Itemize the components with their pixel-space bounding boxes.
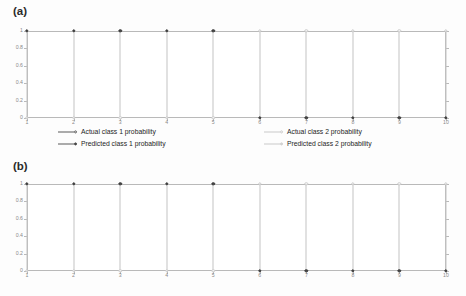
stem-line — [259, 31, 260, 118]
x-tick-label: 8 — [351, 273, 354, 278]
stem-line — [166, 184, 167, 271]
data-point-marker — [118, 29, 121, 32]
stem-line — [73, 184, 74, 271]
legend-column-left: Actual class 1 probability Predicted cla… — [58, 126, 166, 150]
data-point-marker — [398, 29, 401, 32]
data-point-marker — [72, 29, 75, 32]
legend-item-actual-class-1: Actual class 1 probability — [58, 126, 166, 138]
stem-line — [166, 31, 167, 118]
panel-a-label: (a) — [13, 5, 27, 17]
data-point-marker — [351, 29, 354, 32]
legend-column-right: Actual class 2 probability Predicted cla… — [264, 126, 372, 150]
x-tick-label: 7 — [305, 120, 308, 125]
data-point-marker — [212, 29, 215, 32]
panel-a: (a) 00.20.40.60.8112345678910 Actual cla… — [0, 0, 466, 155]
axis-bottom-a — [27, 117, 446, 118]
legend-label: Actual class 1 probability — [81, 129, 156, 136]
legend-item-predicted-class-2: Predicted class 2 probability — [264, 138, 372, 150]
legend-label: Actual class 2 probability — [287, 129, 362, 136]
x-tick-label: 6 — [258, 120, 261, 125]
y-tick-label: 0.6 — [16, 63, 23, 68]
legend-label: Predicted class 2 probability — [287, 141, 372, 148]
x-tick-label: 5 — [212, 120, 215, 125]
data-point-marker — [444, 182, 447, 185]
data-point-marker — [212, 182, 215, 185]
y-tick-label: 0.4 — [16, 81, 23, 86]
y-tick-label: 0.6 — [16, 216, 23, 221]
x-tick-label: 8 — [351, 120, 354, 125]
x-tick-label: 3 — [119, 273, 122, 278]
legend-item-predicted-class-1: Predicted class 1 probability — [58, 138, 166, 150]
x-tick-label: 9 — [398, 273, 401, 278]
stem-line — [73, 31, 74, 118]
y-tick-label: 0.8 — [16, 199, 23, 204]
x-tick-label: 2 — [72, 273, 75, 278]
y-tick-label: 0.4 — [16, 234, 23, 239]
plot-area-a: 00.20.40.60.8112345678910 — [27, 31, 446, 118]
stem-line — [27, 31, 28, 118]
legend-label: Predicted class 1 probability — [81, 141, 166, 148]
stem-line — [352, 31, 353, 118]
axis-bottom-b — [27, 270, 446, 271]
stem-line — [259, 184, 260, 271]
x-tick-label: 2 — [72, 120, 75, 125]
stem-line — [27, 184, 28, 271]
data-point-marker — [305, 29, 308, 32]
data-point-marker — [25, 29, 28, 32]
y-tick-label: 1 — [20, 28, 23, 33]
data-point-marker — [165, 182, 168, 185]
figure-canvas: (a) 00.20.40.60.8112345678910 Actual cla… — [0, 0, 466, 296]
panel-b-label: (b) — [13, 160, 28, 172]
stem-line — [399, 184, 400, 271]
axis-top-a — [27, 31, 446, 32]
legend-line-open-circle-light-icon — [264, 128, 284, 136]
stem-line — [399, 31, 400, 118]
stem-line — [352, 184, 353, 271]
x-tick-label: 4 — [165, 273, 168, 278]
x-tick-label: 4 — [165, 120, 168, 125]
data-point-marker — [165, 29, 168, 32]
data-point-marker — [444, 29, 447, 32]
stem-line — [120, 31, 121, 118]
legend-line-filled-circle-dark-icon — [58, 140, 78, 148]
x-tick-label: 7 — [305, 273, 308, 278]
x-tick-label: 10 — [443, 273, 449, 278]
x-tick-label: 9 — [398, 120, 401, 125]
legend-line-filled-square-light-icon — [264, 140, 284, 148]
legend-item-actual-class-2: Actual class 2 probability — [264, 126, 372, 138]
data-point-marker — [258, 182, 261, 185]
data-point-marker — [305, 182, 308, 185]
panel-b: (b) 00.20.40.60.8112345678910 — [0, 155, 466, 296]
axis-top-b — [27, 184, 446, 185]
data-point-marker — [25, 182, 28, 185]
data-point-marker — [118, 182, 121, 185]
x-tick-label: 3 — [119, 120, 122, 125]
stem-line — [213, 31, 214, 118]
data-point-marker — [258, 29, 261, 32]
data-point-marker — [351, 182, 354, 185]
y-tick-label: 0 — [20, 268, 23, 273]
stem-line — [446, 184, 447, 271]
data-point-marker — [72, 182, 75, 185]
y-tick-label: 0 — [20, 115, 23, 120]
stem-line — [306, 184, 307, 271]
stem-line — [446, 31, 447, 118]
y-tick-label: 0.2 — [16, 251, 23, 256]
x-tick-label: 5 — [212, 273, 215, 278]
stem-line — [306, 31, 307, 118]
y-tick-label: 1 — [20, 181, 23, 186]
y-tick-label: 0.2 — [16, 98, 23, 103]
plot-area-b: 00.20.40.60.8112345678910 — [27, 184, 446, 271]
x-tick-label: 6 — [258, 273, 261, 278]
x-tick-label: 1 — [26, 120, 29, 125]
legend: Actual class 1 probability Predicted cla… — [0, 126, 466, 154]
y-tick-label: 0.8 — [16, 46, 23, 51]
data-point-marker — [398, 182, 401, 185]
x-tick-label: 1 — [26, 273, 29, 278]
x-tick-label: 10 — [443, 120, 449, 125]
stem-line — [213, 184, 214, 271]
stem-line — [120, 184, 121, 271]
legend-line-open-circle-dark-icon — [58, 128, 78, 136]
